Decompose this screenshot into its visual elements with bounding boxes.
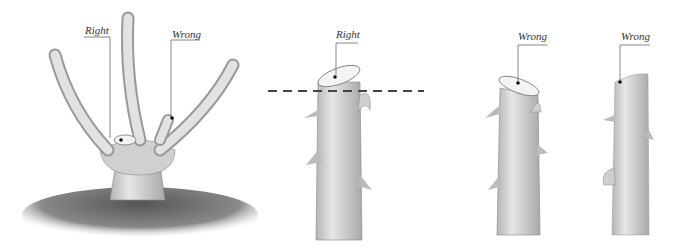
- label-stem-wrong-2: Wrong: [621, 30, 650, 42]
- label-bush-wrong: Wrong: [172, 28, 201, 40]
- label-bush-right: Right: [85, 24, 109, 36]
- stem-right-cut: [268, 43, 424, 240]
- stem-wrong-slanted: [485, 45, 548, 235]
- rose-bush: [22, 18, 258, 243]
- label-stem-wrong-1: Wrong: [518, 30, 547, 42]
- label-stem-right: Right: [336, 28, 360, 40]
- stem-wrong-stub: [603, 45, 654, 235]
